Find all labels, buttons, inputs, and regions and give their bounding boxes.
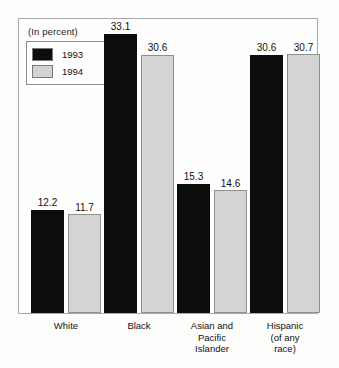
legend-item-1993[interactable]: 1993 <box>32 46 103 63</box>
legend-label-1994: 1994 <box>62 66 83 77</box>
bar-value-hispanic-1994: 30.7 <box>277 42 330 53</box>
legend-swatch-1993-icon <box>32 48 53 61</box>
bar-value-black-1993: 33.1 <box>94 21 147 32</box>
chart-legend: (In percent) 1993 1994 <box>26 26 114 85</box>
bar-asian-1994[interactable] <box>214 190 247 313</box>
bar-white-1993[interactable] <box>31 210 64 313</box>
bar-chart: (In percent) 1993 1994 12.2 11.7 33.1 30… <box>0 0 339 368</box>
bar-asian-1993[interactable] <box>177 184 210 313</box>
legend-box: 1993 1994 <box>26 41 110 85</box>
category-label-hispanic-line1: Hispanic <box>241 320 329 332</box>
bar-hispanic-1993[interactable] <box>250 55 283 313</box>
category-label-hispanic-line2: (of any <box>241 332 329 344</box>
category-label-hispanic: Hispanic (of any race) <box>241 320 329 355</box>
category-label-hispanic-line3: race) <box>241 343 329 355</box>
bar-white-1994[interactable] <box>68 214 101 313</box>
bar-black-1994[interactable] <box>141 55 174 313</box>
bar-black-1993[interactable] <box>104 34 137 313</box>
bar-value-black-1994: 30.6 <box>131 42 184 53</box>
legend-label-1993: 1993 <box>62 49 83 60</box>
legend-item-1994[interactable]: 1994 <box>32 63 103 80</box>
legend-swatch-1994-icon <box>32 65 53 78</box>
bar-hispanic-1994[interactable] <box>287 54 320 313</box>
